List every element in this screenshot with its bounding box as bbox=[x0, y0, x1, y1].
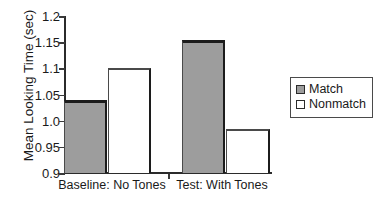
legend-swatch-nonmatch-icon bbox=[296, 100, 305, 109]
bar-test-match bbox=[182, 40, 225, 174]
y-tick-mark-4 bbox=[59, 68, 65, 70]
y-tick-label-2: 1.0 bbox=[20, 113, 60, 128]
y-tick-label-3: 1.05 bbox=[20, 87, 60, 102]
chart-legend: Match Nonmatch bbox=[290, 77, 373, 118]
y-tick-label-6: 1.2 bbox=[20, 9, 60, 24]
legend-label-match: Match bbox=[309, 83, 343, 97]
y-tick-mark-0 bbox=[59, 173, 65, 175]
bar-baseline-match bbox=[64, 100, 107, 173]
x-category-label-test: Test: With Tones bbox=[170, 178, 274, 192]
y-tick-label-1: 0.95 bbox=[20, 139, 60, 154]
bar-test-nonmatch bbox=[226, 129, 270, 174]
legend-label-nonmatch: Nonmatch bbox=[309, 98, 366, 112]
bar-baseline-nonmatch bbox=[108, 68, 151, 173]
y-tick-label-5: 1.15 bbox=[20, 35, 60, 50]
legend-swatch-match-icon bbox=[296, 85, 305, 94]
y-tick-mark-6 bbox=[59, 16, 65, 18]
bar-chart: Mean Looking Time (sec) 0.9 0.95 1.0 1.0… bbox=[0, 0, 379, 203]
x-category-label-baseline: Baseline: No Tones bbox=[56, 178, 168, 192]
legend-item-match: Match bbox=[296, 83, 366, 97]
legend-item-nonmatch: Nonmatch bbox=[296, 98, 366, 112]
y-tick-label-4: 1.1 bbox=[20, 61, 60, 76]
y-tick-label-0: 0.9 bbox=[20, 166, 60, 181]
y-tick-mark-5 bbox=[59, 42, 65, 44]
y-tick-mark-3 bbox=[59, 95, 65, 97]
y-axis-tick-labels: 0.9 0.95 1.0 1.05 1.1 1.15 1.2 bbox=[16, 16, 60, 173]
plot-area bbox=[64, 16, 272, 173]
